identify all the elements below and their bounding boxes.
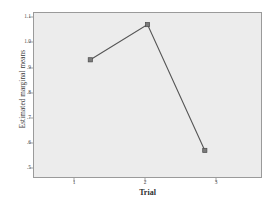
x-axis-title: Trial	[33, 188, 262, 197]
y-axis-title: Estimated marginal means	[19, 19, 27, 159]
profile-plot-figure: 1.1 1.0 .9 .8 .7 .6 .5 1 2 3 Estimated m…	[0, 0, 271, 206]
x-tick-label: 1	[67, 180, 81, 185]
x-tick-label: 2	[138, 180, 152, 185]
x-axis-tick-labels: 1 2 3	[0, 0, 271, 206]
x-tick-label: 3	[209, 180, 223, 185]
